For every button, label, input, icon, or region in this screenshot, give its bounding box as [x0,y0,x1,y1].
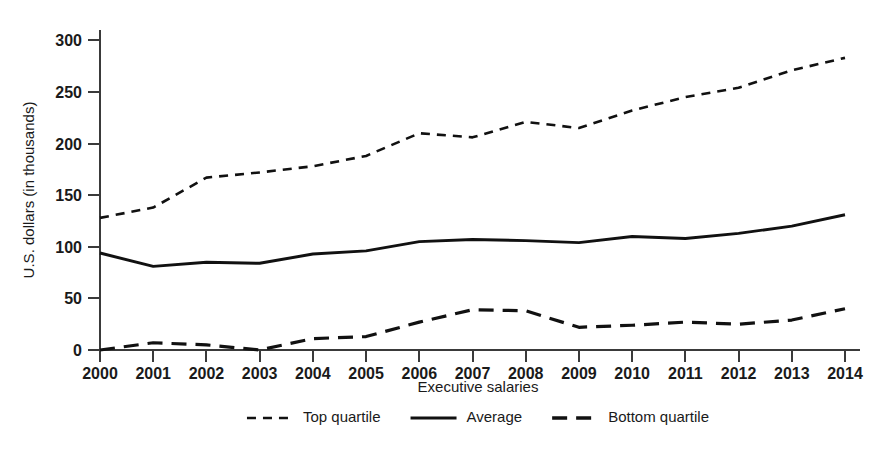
y-axis-group: 050100150200250300 U.S. dollars (in thou… [20,30,100,359]
x-tick-label: 2001 [135,365,171,382]
y-axis-title: U.S. dollars (in thousands) [20,102,37,279]
legend-label: Top quartile [303,408,381,425]
series-layer [100,58,845,350]
x-tick-label: 2012 [721,365,757,382]
legend-item-average[interactable]: Average [411,408,523,425]
y-tick-label: 100 [55,239,82,256]
series-top-quartile [100,58,845,218]
legend-item-top-quartile[interactable]: Top quartile [247,408,381,425]
legend-item-bottom-quartile[interactable]: Bottom quartile [552,408,709,425]
x-tick-label: 2003 [242,365,278,382]
x-tick-label: 2002 [189,365,225,382]
x-tick-label: 2014 [827,365,863,382]
series-average [100,215,845,267]
y-tick-label: 200 [55,136,82,153]
y-tick-label: 250 [55,84,82,101]
x-tick-label: 2004 [295,365,331,382]
y-tick-label: 300 [55,32,82,49]
legend-label: Average [467,408,523,425]
chart-container: 050100150200250300 U.S. dollars (in thou… [0,0,885,452]
x-tick-label: 2005 [348,365,384,382]
x-tick-label: 2010 [614,365,650,382]
x-axis-group: 2000200120022003200420052006200720082009… [82,350,863,395]
line-chart: 050100150200250300 U.S. dollars (in thou… [0,0,885,452]
x-tick-label: 2011 [668,365,703,382]
legend-label: Bottom quartile [608,408,709,425]
x-axis-ticks [100,350,845,362]
x-tick-label: 2000 [82,365,118,382]
chart-legend: Top quartileAverageBottom quartile [247,408,709,425]
y-tick-label: 50 [64,290,82,307]
series-bottom-quartile [100,309,845,350]
y-axis-tick-labels: 050100150200250300 [55,32,82,359]
x-tick-label: 2009 [561,365,597,382]
y-tick-label: 150 [55,187,82,204]
x-tick-label: 2013 [774,365,810,382]
x-axis-title: Executive salaries [418,378,539,395]
y-tick-label: 0 [73,342,82,359]
y-axis-ticks [88,40,100,350]
